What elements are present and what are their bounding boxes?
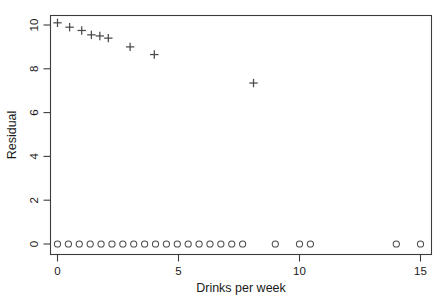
- y-tick-label-0: 0: [28, 241, 40, 247]
- y-tick-label-10: 10: [28, 19, 40, 32]
- x-tick-label-0: 0: [54, 265, 60, 277]
- x-axis-label: Drinks per week: [196, 281, 286, 295]
- x-tick-label-10: 10: [293, 265, 306, 277]
- y-tick-label-8: 8: [28, 66, 40, 72]
- residual-scatter-figure: 0246810 051015 Drinks per week Residual: [0, 0, 447, 308]
- y-tick-label-4: 4: [28, 153, 40, 160]
- x-tick-label-5: 5: [175, 265, 181, 277]
- y-tick-label-6: 6: [28, 109, 40, 115]
- y-axis-label: Residual: [5, 111, 19, 160]
- chart-background: [0, 0, 447, 308]
- x-tick-label-15: 15: [414, 265, 427, 277]
- chart-canvas: 0246810 051015 Drinks per week Residual: [0, 0, 447, 308]
- y-tick-label-2: 2: [28, 197, 40, 203]
